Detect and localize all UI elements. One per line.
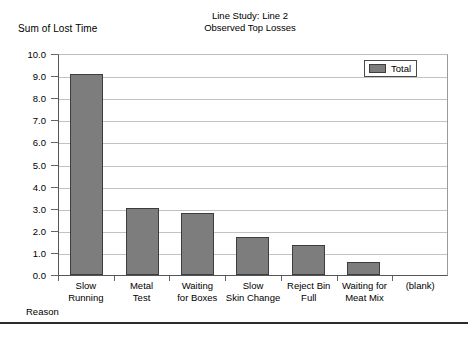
y-tick-mark (51, 54, 58, 55)
y-tick-label: 2.0 (33, 226, 46, 237)
y-tick-mark (51, 120, 58, 121)
y-tick-label: 8.0 (33, 93, 46, 104)
bar (126, 208, 159, 275)
x-tick-label: Reject Bin Full (281, 280, 337, 303)
x-axis: Slow RunningMetal TestWaiting for BoxesS… (58, 280, 448, 303)
y-tick-label: 3.0 (33, 204, 46, 215)
legend-swatch-total (369, 64, 386, 73)
y-tick-mark (51, 142, 58, 143)
legend: Total (364, 60, 417, 77)
x-tick-label: Slow Running (58, 280, 114, 303)
y-tick-mark (51, 209, 58, 210)
x-tick-label: Slow Skin Change (225, 280, 281, 303)
y-tick-label: 10.0 (28, 49, 47, 60)
bar (292, 245, 325, 275)
x-tick-label: (blank) (392, 280, 448, 303)
y-tick-label: 0.0 (33, 270, 46, 281)
x-tick-label: Waiting for Boxes (169, 280, 225, 303)
y-tick-mark (51, 253, 58, 254)
bar-slot (336, 55, 391, 275)
bars-layer (59, 55, 447, 275)
chart-title-line-2: Observed Top Losses (150, 22, 350, 34)
bar-slot (281, 55, 336, 275)
bar (70, 74, 103, 275)
bar-slot (114, 55, 169, 275)
y-tick-label: 6.0 (33, 137, 46, 148)
y-tick-mark (51, 231, 58, 232)
y-tick-label: 7.0 (33, 115, 46, 126)
chart-title: Line Study: Line 2 Observed Top Losses (150, 10, 350, 33)
bar-chart: Sum of Lost Time Line Study: Line 2 Obse… (0, 0, 468, 338)
bar (181, 213, 214, 275)
bar-slot (170, 55, 225, 275)
y-tick-label: 9.0 (33, 71, 46, 82)
bar (347, 262, 380, 275)
bottom-divider (0, 322, 468, 324)
y-axis: 10.09.08.07.06.05.04.03.02.01.00.0 (0, 0, 58, 338)
x-tick-label: Metal Test (114, 280, 170, 303)
y-tick-mark (51, 76, 58, 77)
y-tick-label: 5.0 (33, 160, 46, 171)
y-tick-mark (51, 165, 58, 166)
y-tick-label: 1.0 (33, 248, 46, 259)
y-tick-mark (51, 98, 58, 99)
y-tick-mark (51, 187, 58, 188)
y-tick-mark (51, 275, 58, 276)
bar-slot (392, 55, 447, 275)
bar-slot (225, 55, 280, 275)
chart-title-line-1: Line Study: Line 2 (150, 10, 350, 22)
bar (236, 237, 269, 275)
legend-label-total: Total (391, 63, 411, 74)
bar-slot (59, 55, 114, 275)
x-axis-title: Reason (26, 306, 59, 317)
x-tick-label: Waiting for Meat Mix (337, 280, 393, 303)
plot-area (58, 54, 448, 276)
y-tick-label: 4.0 (33, 182, 46, 193)
